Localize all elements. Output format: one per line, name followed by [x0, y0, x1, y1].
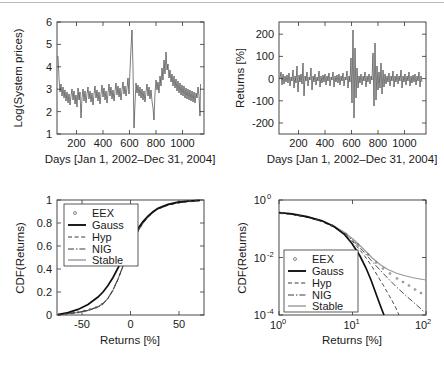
x-tick-label: 400: [316, 137, 334, 149]
x-tick-label: 400: [94, 137, 112, 149]
x-tick-label: 800: [369, 137, 387, 149]
y-axis-ticks-top-left: [57, 22, 204, 134]
series-log-system-prices: [58, 30, 201, 128]
svg-text:1: 1: [356, 317, 360, 326]
x-axis-label-bottom-left: Returns [%]: [100, 334, 160, 346]
y-tick-label: 0.8: [37, 217, 52, 229]
x-tick-label: 600: [120, 137, 138, 149]
legend-label-hyp: Hyp: [312, 277, 332, 289]
x-tick-label: 10 2: [415, 317, 431, 331]
y-tick-label: 0.6: [37, 240, 52, 252]
y-tick-label: 5: [46, 38, 52, 50]
svg-text:10: 10: [254, 309, 266, 321]
y-tick-label: 100: [256, 50, 274, 62]
y-tick-label: -200: [252, 117, 274, 129]
panel-returns-timeseries: -200 -100 0 100 200 200 400 600 800 1000: [222, 8, 444, 190]
y-tick-label: 1: [46, 194, 52, 206]
series-returns: [280, 30, 422, 118]
svg-text:-2: -2: [267, 250, 274, 259]
svg-text:10: 10: [415, 319, 427, 331]
legend-label-stable: Stable: [92, 254, 123, 266]
y-tick-label: 0.2: [37, 286, 52, 298]
x-tick-label: 200: [289, 137, 307, 149]
x-tick-label: 10 1: [343, 317, 359, 331]
svg-text:0: 0: [282, 317, 286, 326]
svg-text:0: 0: [267, 192, 271, 201]
x-axis-label-top-left: Days [Jan 1, 2002–Dec 31, 2004]: [45, 153, 216, 165]
y-tick-label: 1: [46, 128, 52, 140]
y-tick-label: 3: [46, 83, 52, 95]
legend-cdf-loglog: EEX Gauss Hyp NIG Stable: [284, 250, 358, 312]
y-axis-label-bottom-right: CDF(Returns): [236, 222, 248, 294]
legend-label-eex: EEX: [312, 253, 335, 265]
x-tick-label: 800: [147, 137, 165, 149]
x-tick-label: -50: [74, 318, 90, 330]
x-tick-label: 50: [173, 318, 185, 330]
x-axis-label-bottom-right: Returns [%]: [322, 334, 382, 346]
y-tick-label: 0.4: [37, 263, 52, 275]
y-tick-label: 6: [46, 16, 52, 28]
y-axis-label-top-left: Log(System prices): [12, 28, 24, 127]
x-tick-label: 0: [127, 318, 133, 330]
legend-label-gauss: Gauss: [92, 219, 124, 231]
legend-label-gauss: Gauss: [312, 265, 344, 277]
figure-canvas: 1 2 3 4 5 6 200 400 600 800: [0, 0, 444, 375]
svg-text:10: 10: [254, 252, 266, 264]
x-tick-label: 600: [342, 137, 360, 149]
y-axis-label-bottom-left: CDF(Returns): [14, 222, 26, 294]
plot-frame-top-left: [57, 22, 204, 134]
legend-cdf-linear: EEX Gauss Hyp NIG Stable: [64, 204, 138, 266]
x-tick-label: 1000: [170, 137, 194, 149]
panel-cdf-loglog: 10 0 10 -2 10 -4 10 0: [222, 190, 444, 375]
y-tick-label: 0: [46, 309, 52, 321]
panel-log-system-prices: 1 2 3 4 5 6 200 400 600 800: [0, 8, 222, 190]
y-tick-label: 10 0: [254, 192, 271, 206]
y-tick-label: 2: [46, 106, 52, 118]
svg-text:10: 10: [343, 319, 355, 331]
y-tick-label: 200: [256, 28, 274, 40]
svg-text:-4: -4: [267, 307, 274, 316]
svg-text:10: 10: [254, 194, 266, 206]
scan-artifact-line: [0, 2, 444, 3]
y-axis-label-top-right: Returns [%]: [234, 48, 246, 108]
panel-cdf-linear: 0 0.2 0.4 0.6 0.8 1 -50 0 50: [0, 190, 222, 375]
x-tick-label: 200: [67, 137, 85, 149]
svg-text:10: 10: [270, 319, 282, 331]
legend-label-stable: Stable: [312, 300, 343, 312]
x-tick-label: 10 0: [270, 317, 286, 331]
x-axis-label-top-right: Days [Jan 1, 2002–Dec 31, 2004]: [267, 153, 438, 165]
y-tick-label: 4: [46, 61, 52, 73]
y-tick-label: -100: [252, 95, 274, 107]
legend-label-hyp: Hyp: [92, 231, 112, 243]
legend-label-eex: EEX: [92, 207, 115, 219]
x-tick-label: 1000: [392, 137, 416, 149]
y-tick-label: 10 -2: [254, 250, 274, 264]
svg-text:2: 2: [427, 317, 431, 326]
y-tick-label: 0: [268, 73, 274, 85]
